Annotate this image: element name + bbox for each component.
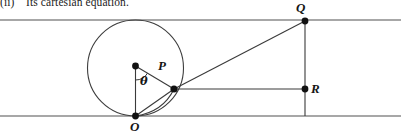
point-dot-center <box>132 63 139 70</box>
point-label-P: P <box>158 59 166 72</box>
point-dot-R <box>302 86 309 93</box>
point-label-R: R <box>311 82 320 95</box>
point-label-Q: Q <box>296 1 305 14</box>
angle-label-theta: θ <box>140 76 148 88</box>
figure-screenshot: (ii)Its cartesian equation. P O Q R θ <box>0 0 401 136</box>
geometry-diagram <box>0 0 401 136</box>
point-dot-P <box>170 85 177 92</box>
segment-P-to-Q <box>174 21 305 89</box>
point-dot-Q <box>302 18 309 25</box>
point-label-O: O <box>130 120 139 133</box>
